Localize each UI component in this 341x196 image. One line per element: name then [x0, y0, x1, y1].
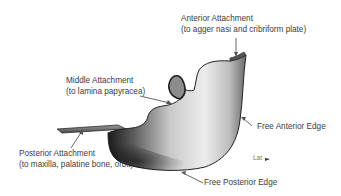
anterior-attachment-detail: (to agger nasi and cribriform plate) — [181, 24, 306, 35]
posterior-attachment-detail: (to maxilla, palatine bone, orbit) — [19, 159, 133, 170]
posterior-attachment-title: Posterior Attachment — [19, 148, 133, 159]
middle-attachment-title: Middle Attachment — [66, 75, 145, 86]
anterior-attachment-title: Anterior Attachment — [181, 13, 306, 24]
middle-attachment-detail: (to lamina papyracea) — [66, 86, 145, 97]
svg-text:Lat: Lat — [253, 154, 262, 161]
anterior-attachment-label: Anterior Attachment (to agger nasi and c… — [181, 13, 306, 35]
middle-attachment-bulb — [169, 76, 185, 99]
posterior-attachment-label: Posterior Attachment (to maxilla, palati… — [19, 148, 133, 170]
orientation-marker: Lat — [253, 154, 270, 161]
free-anterior-edge-label: Free Anterior Edge — [257, 121, 326, 132]
free-posterior-edge-label: Free Posterior Edge — [204, 177, 277, 188]
middle-attachment-label: Middle Attachment (to lamina papyracea) — [66, 75, 145, 97]
